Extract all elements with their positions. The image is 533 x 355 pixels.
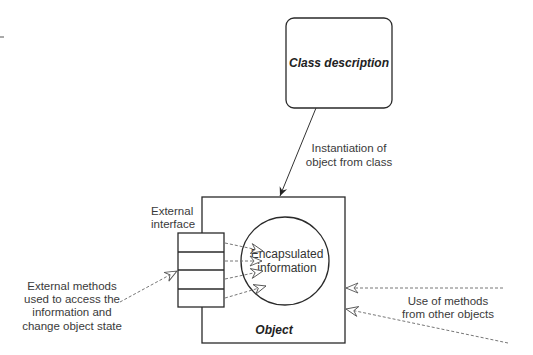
- object-label: Object: [255, 323, 293, 337]
- instantiation-label-2: object from class: [306, 156, 393, 168]
- instantiation-arrow: [280, 108, 316, 196]
- external-methods-arrow: [120, 271, 177, 302]
- interface-label-1: External: [151, 205, 193, 217]
- other-objects-label-1: Use of methods: [408, 295, 489, 307]
- class-description-label: Class description: [289, 56, 389, 70]
- encapsulated-label-1: Encapsulated: [251, 247, 324, 261]
- external-methods-label-3: information and: [32, 306, 111, 318]
- external-methods-label-1: External methods: [27, 280, 117, 292]
- diagram-canvas: Class description Instantiation of objec…: [0, 0, 533, 355]
- external-methods-label-2: used to access the: [24, 293, 120, 305]
- other-objects-label-2: from other objects: [402, 308, 494, 320]
- external-interface: [178, 233, 224, 307]
- encapsulated-information: Encapsulated information: [241, 217, 329, 305]
- instantiation-label-1: Instantiation of: [312, 142, 388, 154]
- class-description-box: Class description: [286, 18, 392, 108]
- external-methods-label-4: change object state: [22, 320, 122, 332]
- encapsulated-label-2: information: [257, 261, 316, 275]
- interface-label-2: interface: [151, 218, 195, 230]
